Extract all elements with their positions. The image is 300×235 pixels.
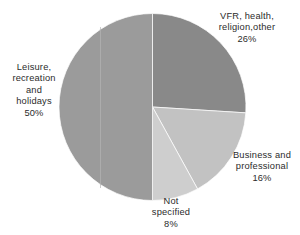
pie-label-leisure: Leisure, recreation and holidays 50%: [2, 62, 66, 119]
pie-label-vfr: VFR, health, religion,other 26%: [196, 11, 298, 45]
pie-chart-figure: VFR, health, religion,other 26% Leisure,…: [0, 0, 300, 235]
pie-slice: [59, 14, 153, 201]
pie-label-not-specified: Not specified 8%: [137, 196, 205, 230]
pie-label-business: Business and professional 16%: [226, 150, 298, 184]
